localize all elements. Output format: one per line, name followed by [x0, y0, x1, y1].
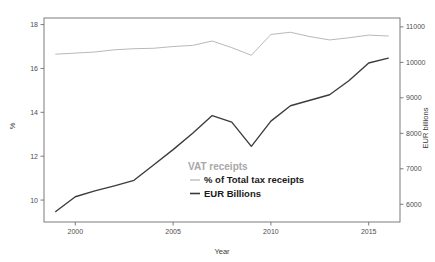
- chart-container: 2000200520102015 1012141618 600070008000…: [0, 0, 435, 262]
- y2-tick-label: 9000: [406, 94, 422, 101]
- y2-tick-label: 7000: [406, 165, 422, 172]
- legend-entry-label: EUR Billions: [204, 188, 261, 199]
- y2-axis-label: EUR billions: [421, 107, 430, 148]
- y2-tick-label: 10000: [406, 59, 426, 66]
- legend-title: VAT receipts: [188, 161, 248, 172]
- x-axis-label: Year: [214, 247, 230, 256]
- x-axis-ticks: 2000200520102015: [68, 222, 377, 235]
- chart-legend: VAT receipts % of Total tax receiptsEUR …: [188, 161, 304, 199]
- x-tick-label: 2005: [165, 228, 181, 235]
- y-axis-ticks: 1012141618: [30, 21, 44, 203]
- y2-tick-label: 6000: [406, 201, 422, 208]
- x-tick-label: 2010: [263, 228, 279, 235]
- y-axis-label: %: [8, 122, 17, 129]
- y-tick-label: 12: [30, 153, 38, 160]
- x-tick-label: 2015: [361, 228, 377, 235]
- y-tick-label: 10: [30, 197, 38, 204]
- y2-tick-label: 11000: [406, 23, 425, 30]
- legend-entry-label: % of Total tax receipts: [204, 174, 304, 185]
- y-tick-label: 18: [30, 21, 38, 28]
- y2-tick-label: 8000: [406, 130, 422, 137]
- chart-svg: 2000200520102015 1012141618 600070008000…: [0, 0, 435, 262]
- y-tick-label: 16: [30, 65, 38, 72]
- x-tick-label: 2000: [68, 228, 84, 235]
- y-tick-label: 14: [30, 109, 38, 116]
- series-line: [56, 32, 389, 55]
